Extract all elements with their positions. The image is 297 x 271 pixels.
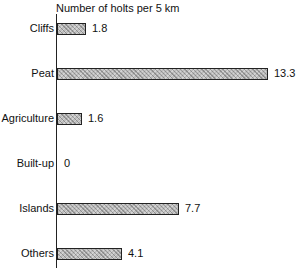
bar-row: Agriculture1.6	[0, 113, 297, 125]
chart-title: Number of holts per 5 km	[56, 2, 180, 14]
bar-row: Islands7.7	[0, 203, 297, 215]
value-label: 7.7	[185, 202, 200, 214]
bar	[57, 113, 82, 125]
value-label: 13.3	[274, 67, 295, 79]
value-label: 0	[64, 157, 70, 169]
value-label: 1.8	[92, 22, 107, 34]
bar-row: Cliffs1.8	[0, 23, 297, 35]
category-label: Peat	[0, 67, 54, 79]
category-label: Others	[0, 247, 54, 259]
bar	[57, 23, 86, 35]
bar	[57, 248, 122, 260]
value-label: 4.1	[128, 247, 143, 259]
y-axis-line	[56, 14, 57, 268]
category-label: Built-up	[0, 157, 54, 169]
bar	[57, 68, 268, 80]
category-label: Islands	[0, 202, 54, 214]
bar	[57, 203, 179, 215]
bar-row: Peat13.3	[0, 68, 297, 80]
category-label: Cliffs	[0, 22, 54, 34]
bar-row: Others4.1	[0, 248, 297, 260]
category-label: Agriculture	[0, 112, 54, 124]
bar-row: Built-up0	[0, 158, 297, 170]
value-label: 1.6	[88, 112, 103, 124]
